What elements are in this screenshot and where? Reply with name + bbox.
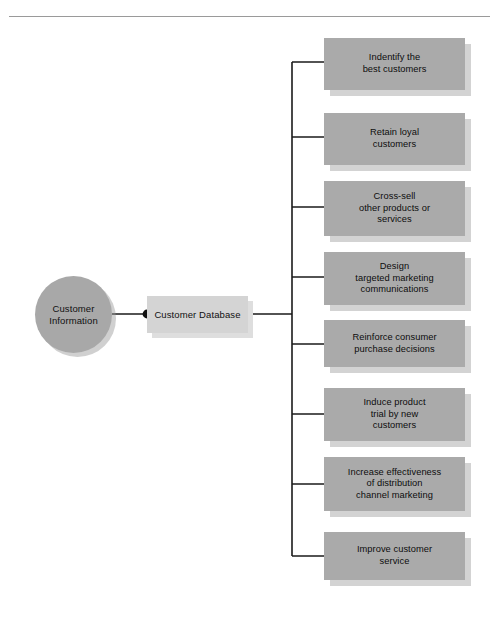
outcome-box-label-line: trial by new [358,409,430,421]
outcome-box-label-line: targeted marketing [350,273,438,285]
source-node-label: Customer Information [49,303,98,327]
outcome-box-improve-customer-service[interactable]: Improve customerservice [324,532,465,580]
outcome-box-label: Designtargeted marketingcommunications [350,261,438,296]
outcome-box-label-line: Retain loyal [365,127,424,139]
outcome-box-label-line: customers [365,139,424,151]
outcome-box-induce-product-trial[interactable]: Induce producttrial by newcustomers [324,388,465,441]
source-node-label-line2: Information [49,315,98,327]
outcome-box-label: Reinforce consumerpurchase decisions [347,332,441,355]
outcome-box-label-line: Improve customer [352,544,437,556]
outcome-box-label-line: Increase effectiveness [343,467,446,479]
outcome-box-reinforce-purchase-decisions[interactable]: Reinforce consumerpurchase decisions [324,320,465,367]
hub-node-customer-database[interactable]: Customer Database [147,296,248,333]
outcome-box-design-targeted-marketing[interactable]: Designtargeted marketingcommunications [324,252,465,305]
outcome-box-label-line: service [352,556,437,568]
outcome-box-label: Cross-sellother products orservices [354,191,435,226]
outcome-box-label-line: communications [350,284,438,296]
diagram-canvas: Customer Information Customer Database I… [0,0,497,620]
outcome-box-label-line: customers [358,420,430,432]
outcome-box-label-line: other products or [354,203,435,215]
outcome-box-identify-best-customers[interactable]: Indentify thebest customers [324,38,465,90]
outcome-box-label-line: of distribution [343,478,446,490]
outcome-box-increase-distribution-effectiveness[interactable]: Increase effectivenessof distributioncha… [324,457,465,511]
outcome-box-label-line: Design [350,261,438,273]
outcome-box-label: Improve customerservice [352,544,437,567]
outcome-box-label-line: Induce product [358,397,430,409]
source-node-label-line1: Customer [49,303,98,315]
source-node-customer-information[interactable]: Customer Information [35,276,112,353]
outcome-box-cross-sell-products[interactable]: Cross-sellother products orservices [324,181,465,236]
outcome-box-label-line: best customers [358,64,432,76]
outcome-box-label-line: purchase decisions [347,344,441,356]
top-divider-rule [9,16,490,17]
hub-node-label: Customer Database [154,309,240,321]
outcome-box-label-line: Reinforce consumer [347,332,441,344]
outcome-box-label-line: services [354,214,435,226]
outcome-box-label-line: channel marketing [343,490,446,502]
outcome-box-retain-loyal-customers[interactable]: Retain loyalcustomers [324,113,465,165]
outcome-box-label-line: Cross-sell [354,191,435,203]
outcome-box-label: Indentify thebest customers [358,52,432,75]
outcome-box-label: Increase effectivenessof distributioncha… [343,467,446,502]
outcome-box-label-line: Indentify the [358,52,432,64]
outcome-box-label: Retain loyalcustomers [365,127,424,150]
outcome-box-label: Induce producttrial by newcustomers [358,397,430,432]
